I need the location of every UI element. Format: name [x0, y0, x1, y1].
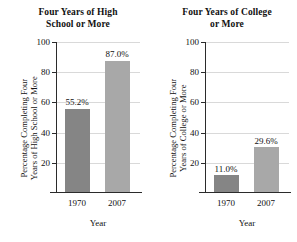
y-tick-label: 100	[186, 37, 200, 47]
x-tick-label-2007: 2007	[243, 198, 289, 208]
chart-title-line-1: Four Years of College	[182, 7, 271, 17]
x-axis-label: Year	[56, 218, 140, 228]
x-axis-line	[50, 192, 142, 193]
y-tick-label: 40	[41, 128, 50, 138]
y-tick-label: 100	[37, 37, 51, 47]
y-axis-label-line-1: Percentage Completing Four	[168, 79, 178, 178]
y-axis-label-line-1: Percentage Completing Four	[19, 79, 29, 178]
tick-mark	[52, 163, 57, 164]
tick-mark	[201, 133, 206, 134]
bar-2007	[254, 147, 279, 192]
chart-title: Four Years of High School or More	[16, 7, 140, 30]
y-tick-label: 20	[41, 158, 50, 168]
gridline	[205, 133, 289, 134]
bar-value-label-2007: 29.6%	[243, 136, 289, 146]
y-axis-label-line-2: Years of College or More	[178, 43, 188, 213]
x-tick-label-2007: 2007	[94, 198, 140, 208]
plot-area: 100 80 60 40 20	[205, 42, 289, 193]
chart-title-line-2: School or More	[46, 19, 110, 29]
chart-title: Four Years of College or More	[165, 7, 289, 30]
y-tick-label: 80	[41, 67, 50, 77]
y-axis-label: Percentage Completing Four Years of High…	[19, 43, 39, 213]
tick-mark	[201, 72, 206, 73]
tick-mark	[201, 42, 206, 43]
gridline	[56, 42, 140, 43]
y-tick-label: 60	[41, 97, 50, 107]
chart-title-line-1: Four Years of High	[38, 7, 117, 17]
gridline	[205, 42, 289, 43]
y-axis-line	[56, 42, 57, 193]
chart-panel-high-school: Four Years of High School or More Percen…	[0, 0, 148, 242]
bar-value-label-2007: 87.0%	[94, 49, 140, 59]
bar-1970	[214, 175, 239, 192]
y-tick-label: 60	[190, 97, 199, 107]
y-tick-label: 40	[190, 128, 199, 138]
y-tick-label: 20	[190, 158, 199, 168]
bar-value-label-1970: 11.0%	[203, 164, 249, 174]
y-axis-label-line-2: Years of High School or More	[29, 43, 39, 213]
gridline	[205, 72, 289, 73]
plot-area: 100 80 60 40 20	[56, 42, 140, 193]
chart-panel-college: Four Years of College or More Percentage…	[149, 0, 297, 242]
bar-chart-figure: Four Years of High School or More Percen…	[0, 0, 297, 242]
y-tick-label: 80	[190, 67, 199, 77]
y-axis-label: Percentage Completing Four Years of Coll…	[168, 43, 188, 213]
tick-mark	[52, 42, 57, 43]
tick-mark	[52, 72, 57, 73]
tick-mark	[201, 102, 206, 103]
bar-2007	[105, 61, 130, 192]
x-axis-line	[199, 192, 291, 193]
gridline	[205, 102, 289, 103]
bar-1970	[65, 109, 90, 192]
x-axis-label: Year	[205, 218, 289, 228]
tick-mark	[52, 133, 57, 134]
chart-title-line-2: or More	[210, 19, 244, 29]
bar-value-label-1970: 55.2%	[54, 97, 100, 107]
